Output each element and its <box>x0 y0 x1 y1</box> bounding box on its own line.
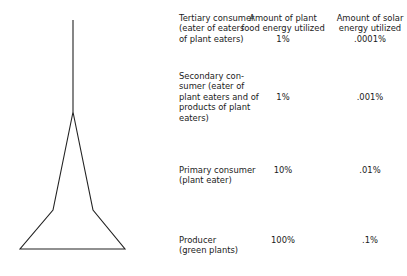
solar-value-producer: .1% <box>320 235 407 245</box>
solar-value-tertiary: .0001% <box>320 34 407 44</box>
solar-value-primary: .01% <box>320 165 407 175</box>
header-solar-energy: Amount of solar energy utilized <box>320 13 407 34</box>
solar-value-secondary: .001% <box>320 92 407 102</box>
